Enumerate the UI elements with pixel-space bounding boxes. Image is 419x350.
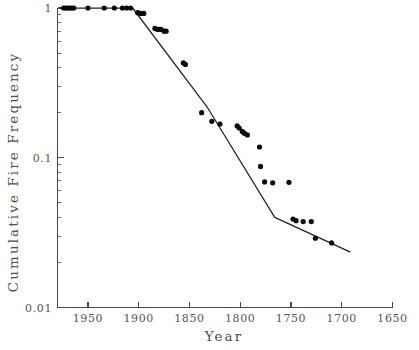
data-point xyxy=(128,5,133,10)
data-point xyxy=(270,180,275,185)
x-tick-label: 1750 xyxy=(276,312,306,325)
data-point xyxy=(209,119,214,124)
data-point xyxy=(183,62,188,67)
x-axis-tick-labels: 1950190018501800175017001650 xyxy=(73,312,408,325)
data-point xyxy=(112,5,117,10)
x-axis-label: Year xyxy=(204,328,244,344)
y-axis-tick-labels: 10.10.01 xyxy=(25,2,52,315)
data-point xyxy=(141,11,146,16)
data-point xyxy=(258,164,263,169)
data-point xyxy=(313,236,318,241)
data-point xyxy=(293,218,298,223)
y-axis-label: Cumulative Fire Frequency xyxy=(5,52,21,292)
data-point xyxy=(245,132,250,137)
data-point xyxy=(71,5,76,10)
data-point xyxy=(301,219,306,224)
x-tick-label: 1900 xyxy=(124,312,154,325)
data-point xyxy=(286,180,291,185)
x-axis-ticks xyxy=(88,302,393,308)
data-point xyxy=(102,5,107,10)
y-tick-label: 0.1 xyxy=(33,152,52,165)
data-point xyxy=(217,121,222,126)
y-tick-label: 0.01 xyxy=(25,302,52,315)
x-tick-label: 1650 xyxy=(377,312,407,325)
data-point xyxy=(257,144,262,149)
data-point xyxy=(329,240,334,245)
figure-container: 10.10.01 1950190018501800175017001650 Cu… xyxy=(0,0,419,350)
x-tick-label: 1700 xyxy=(327,312,357,325)
fitted-regression-line xyxy=(60,8,350,252)
data-point xyxy=(309,219,314,224)
x-tick-label: 1850 xyxy=(174,312,204,325)
axes-group xyxy=(57,8,393,308)
x-tick-label: 1800 xyxy=(225,312,255,325)
y-tick-label: 1 xyxy=(44,2,52,15)
x-tick-label: 1950 xyxy=(73,312,103,325)
data-point xyxy=(199,110,204,115)
data-points-group xyxy=(61,5,334,245)
cumulative-fire-frequency-chart: 10.10.01 1950190018501800175017001650 Cu… xyxy=(0,0,419,350)
data-point xyxy=(262,179,267,184)
data-point xyxy=(164,29,169,34)
data-point xyxy=(85,5,90,10)
